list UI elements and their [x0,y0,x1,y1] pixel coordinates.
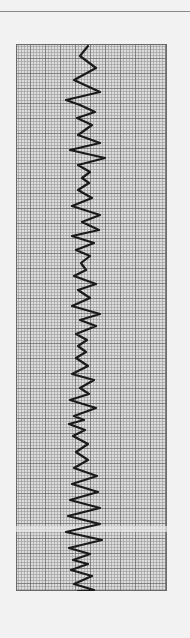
top-rule [0,11,190,12]
strip-chart-svg [16,44,167,591]
strip-chart [16,44,167,591]
